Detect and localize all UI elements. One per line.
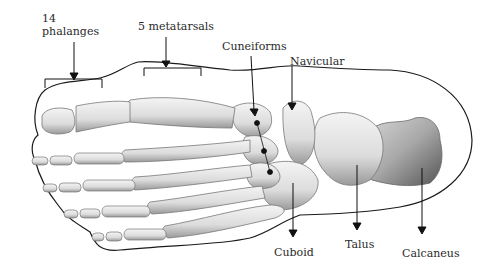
phalanx-toe5-distal (92, 233, 104, 241)
phalanx-toe4-middle (80, 209, 100, 218)
label-phalanges: 14 phalanges (42, 12, 99, 38)
label-cuboid: Cuboid (274, 246, 314, 259)
phalanx-toe3-proximal (83, 180, 135, 191)
phalanx-toe2-distal (32, 157, 48, 165)
label-metatarsals: 5 metatarsals (138, 20, 214, 33)
phalanx-toe4-distal (64, 210, 78, 218)
phalanx-toe3-middle (59, 183, 81, 192)
label-calcaneus: Calcaneus (402, 247, 460, 260)
phalanx-toe5-middle (106, 232, 122, 241)
label-cuneiforms: Cuneiforms (222, 40, 287, 53)
phalanx-toe2-middle (50, 156, 72, 165)
phalanx-toe5-proximal (124, 229, 166, 240)
phalanx-toe3-distal (43, 184, 57, 192)
phalanx-toe2-proximal (74, 153, 124, 164)
label-navicular: Navicular (290, 55, 345, 68)
phalanx-toe4-proximal (102, 206, 150, 217)
phalanx-hallux-distal (42, 108, 75, 134)
label-talus: Talus (345, 238, 374, 251)
